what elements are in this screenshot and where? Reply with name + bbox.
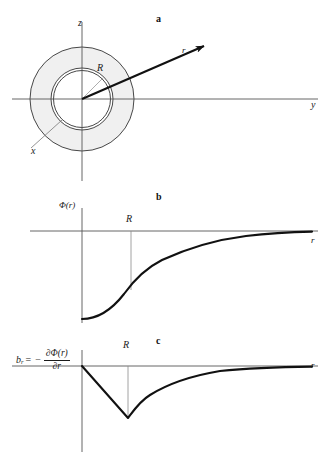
panel-c-curve-br: [82, 366, 312, 418]
panel-tag-c: c: [156, 336, 160, 346]
panel-tag-b: b: [156, 192, 162, 202]
panel-b-tick-R-label: R: [126, 214, 132, 224]
axis-z-label: z: [78, 18, 82, 28]
figure-root: z y x r R a Φ(r) r R b br = − ∂Φ(r): [0, 0, 330, 456]
panel-c-ylabel-minus: −: [35, 355, 41, 365]
panel-c-ylabel: br = − ∂Φ(r) ∂r: [16, 349, 70, 371]
axis-x-label: x: [31, 146, 35, 156]
axis-y-label: y: [311, 100, 315, 110]
panel-c-ylabel-denominator: ∂r: [51, 362, 63, 372]
panel-b-plot: [0, 190, 330, 325]
panel-c-ylabel-fraction: ∂Φ(r) ∂r: [44, 349, 70, 371]
panel-b-ylabel: Φ(r): [59, 201, 75, 210]
panel-c-ylabel-subscript: r: [21, 359, 24, 366]
panel-a-geometry: [0, 0, 330, 186]
panel-b-curve-phi: [82, 232, 312, 319]
panel-c-xlabel: r: [311, 361, 315, 370]
panel-tag-a: a: [156, 14, 161, 24]
panel-b-xlabel: r: [311, 236, 315, 245]
vector-r-label: r: [182, 46, 186, 55]
panel-c-ylabel-equals: =: [26, 355, 32, 365]
panel-c-ylabel-numerator: ∂Φ(r): [44, 349, 70, 359]
panel-c-tick-R-label: R: [123, 340, 129, 350]
radius-R-label: R: [97, 63, 103, 73]
